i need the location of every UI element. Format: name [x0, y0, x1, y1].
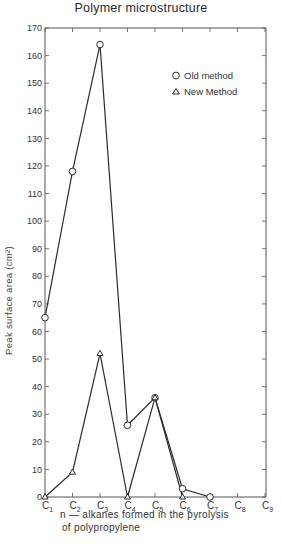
y-tick-label: 20: [32, 437, 42, 447]
legend-triangle-icon: [173, 89, 180, 95]
y-tick-label: 30: [32, 409, 42, 419]
y-tick-label: 160: [27, 51, 42, 61]
y-tick-label: 60: [32, 327, 42, 337]
y-tick-label: 80: [32, 271, 42, 281]
y-tick-label: 120: [27, 161, 42, 171]
old-method-point: [42, 314, 49, 321]
line-chart: 0102030405060708090100110120130140150160…: [0, 0, 282, 546]
x-axis-ticks: C1C2C3C4C5C6C7C8C9: [42, 28, 273, 513]
legend-old-label: Old method: [184, 70, 233, 81]
new-method-point: [180, 494, 186, 499]
y-tick-label: 40: [32, 382, 42, 392]
old-method-point: [207, 494, 214, 501]
x-tick-label: C9: [262, 500, 273, 513]
legend-circle-icon: [173, 72, 180, 79]
chart-axes: [45, 28, 266, 497]
y-tick-label: 70: [32, 299, 42, 309]
y-tick-label: 90: [32, 244, 42, 254]
x-axis-label: n — alkanes formed in the pyrolysis of p…: [60, 508, 229, 534]
legend-new-label: New Method: [184, 86, 237, 97]
x-tick-label: C8: [235, 500, 246, 513]
y-tick-label: 100: [27, 216, 42, 226]
old-method-point: [179, 485, 186, 492]
old-method-line: [45, 45, 210, 497]
y-axis-label: Peak surface area (cm²): [3, 241, 14, 361]
legend: Old method New Method: [173, 70, 238, 97]
new-method-point: [70, 469, 76, 474]
old-method-point: [97, 41, 104, 48]
y-tick-label: 170: [27, 23, 42, 33]
old-method-point: [124, 422, 131, 429]
y-tick-label: 130: [27, 134, 42, 144]
y-tick-label: 110: [28, 189, 42, 199]
y-tick-label: 10: [32, 465, 42, 475]
new-method-point: [97, 350, 103, 355]
y-tick-label: 50: [32, 354, 42, 364]
x-tick-label: C1: [42, 500, 53, 513]
new-method-point: [125, 494, 131, 499]
y-tick-label: 140: [27, 106, 42, 116]
x-axis-label-line1: n — alkanes formed in the pyrolysis: [60, 509, 229, 520]
x-axis-label-line2: of polypropylene: [60, 521, 229, 534]
data-series: [42, 41, 214, 500]
new-method-line: [45, 354, 183, 497]
y-tick-label: 150: [27, 78, 42, 88]
old-method-point: [69, 168, 76, 175]
